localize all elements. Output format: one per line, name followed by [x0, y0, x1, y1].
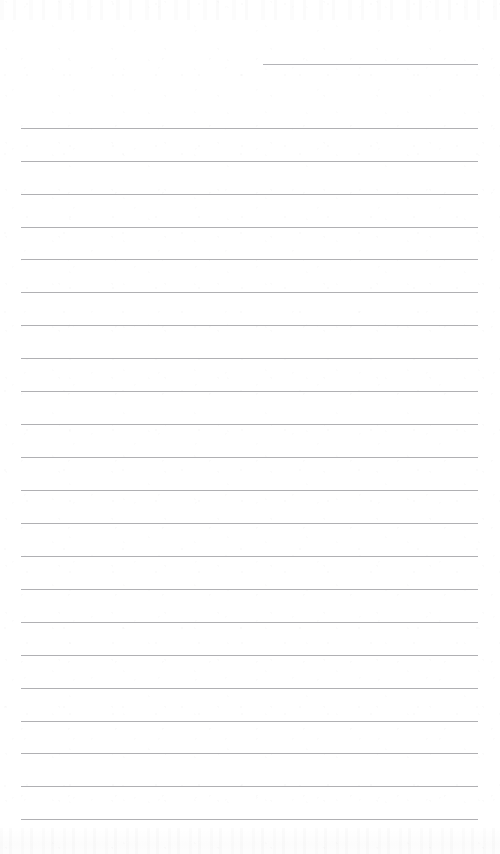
writing-line-value — [21, 556, 22, 557]
writing-line[interactable] — [21, 622, 478, 623]
writing-line-value — [21, 194, 22, 195]
writing-line-value — [21, 819, 22, 820]
writing-line[interactable] — [21, 325, 478, 326]
writing-line[interactable] — [21, 457, 478, 458]
writing-line-value — [21, 391, 22, 392]
writing-line[interactable] — [21, 424, 478, 425]
writing-lines-area[interactable] — [0, 0, 500, 854]
writing-line[interactable] — [21, 128, 478, 129]
writing-line[interactable] — [21, 556, 478, 557]
writing-line-value — [21, 325, 22, 326]
writing-line-value — [21, 589, 22, 590]
writing-line-value — [21, 688, 22, 689]
writing-line[interactable] — [21, 391, 478, 392]
writing-line[interactable] — [21, 259, 478, 260]
writing-line[interactable] — [21, 523, 478, 524]
writing-line[interactable] — [21, 688, 478, 689]
writing-line-value — [21, 259, 22, 260]
writing-line[interactable] — [21, 589, 478, 590]
writing-line[interactable] — [21, 721, 478, 722]
writing-line-value — [21, 523, 22, 524]
writing-line[interactable] — [21, 161, 478, 162]
writing-line[interactable] — [21, 358, 478, 359]
writing-line-value — [21, 227, 22, 228]
notebook-page — [0, 0, 500, 854]
writing-line[interactable] — [21, 194, 478, 195]
writing-line-value — [21, 655, 22, 656]
writing-line[interactable] — [21, 786, 478, 787]
writing-line[interactable] — [21, 753, 478, 754]
writing-line-value — [21, 786, 22, 787]
writing-line[interactable] — [21, 227, 478, 228]
writing-line-value — [21, 457, 22, 458]
writing-line-value — [21, 753, 22, 754]
writing-line-value — [21, 490, 22, 491]
writing-line[interactable] — [21, 819, 478, 820]
writing-line-value — [21, 292, 22, 293]
writing-line[interactable] — [21, 490, 478, 491]
signature-rule[interactable] — [263, 64, 478, 65]
writing-line-value — [21, 161, 22, 162]
writing-line[interactable] — [21, 292, 478, 293]
writing-line[interactable] — [21, 655, 478, 656]
signature-rule-label — [263, 64, 264, 65]
writing-line-value — [21, 622, 22, 623]
writing-line-value — [21, 128, 22, 129]
writing-line-value — [21, 424, 22, 425]
writing-line-value — [21, 721, 22, 722]
writing-line-value — [21, 358, 22, 359]
